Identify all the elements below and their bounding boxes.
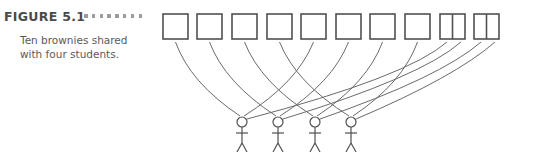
student-leg-icon (346, 143, 351, 152)
half-share-line (320, 42, 481, 119)
student-leg-icon (278, 143, 283, 152)
half-share-line (356, 42, 495, 119)
share-line (176, 42, 241, 116)
brownie-box (197, 14, 222, 39)
brownie-box (232, 14, 257, 39)
student-head-icon (310, 117, 320, 127)
brownie-box (267, 14, 292, 39)
student-head-icon (346, 117, 356, 127)
student-leg-icon (310, 143, 315, 152)
brownie-sharing-diagram (0, 0, 538, 159)
brownie-box (370, 14, 395, 39)
brownie-box (336, 14, 361, 39)
student-leg-icon (351, 143, 356, 152)
brownie-box (405, 14, 430, 39)
brownie-box (163, 14, 188, 39)
student-leg-icon (237, 143, 242, 152)
student-leg-icon (242, 143, 247, 152)
student-leg-icon (315, 143, 320, 152)
student-head-icon (273, 117, 283, 127)
student-head-icon (237, 117, 247, 127)
share-line (353, 42, 418, 116)
brownie-box (301, 14, 326, 39)
student-leg-icon (273, 143, 278, 152)
share-line (210, 42, 277, 116)
